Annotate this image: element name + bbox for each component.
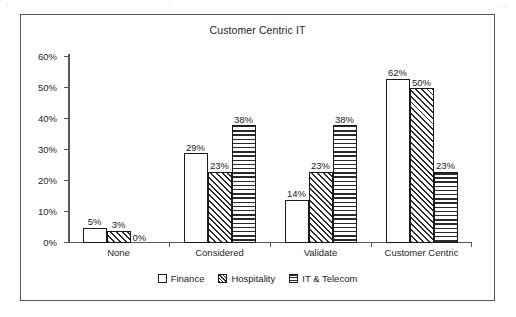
bar-group-bars: 62% 50% 23% [371, 57, 472, 243]
bar-hospitality[interactable]: 50% [410, 88, 434, 243]
bar-value-label: 5% [88, 217, 102, 227]
legend-item-finance[interactable]: Finance [158, 273, 205, 284]
bar-finance[interactable]: 5% [83, 228, 107, 244]
legend-label-finance: Finance [171, 273, 205, 284]
bar-it-telecom[interactable]: 38% [232, 125, 256, 243]
bar-group-validate: 14% 23% 38% [270, 57, 371, 243]
bar-hospitality[interactable]: 23% [309, 172, 333, 243]
x-axis-category-none: None [68, 247, 169, 258]
bar-slot: 14% [285, 57, 309, 243]
legend-item-hospitality[interactable]: Hospitality [218, 273, 275, 284]
x-axis-category-considered: Considered [169, 247, 270, 258]
bar-finance[interactable]: 62% [386, 79, 410, 243]
bar-value-label: 23% [436, 161, 455, 171]
bar-slot: 5% [83, 57, 107, 243]
x-axis-category-customer-centric: Customer Centric [371, 247, 472, 258]
bar-hospitality[interactable]: 3% [107, 231, 131, 243]
bar-value-label: 38% [335, 115, 354, 125]
chart-container: Customer Centric IT 0% 10% 20% 30% 40% 5… [20, 14, 495, 301]
bar-it-telecom[interactable]: 23% [434, 172, 458, 243]
bar-slot: 23% [434, 57, 458, 243]
bar-slot: 29% [184, 57, 208, 243]
legend-swatch-it-telecom-icon [289, 274, 298, 283]
bar-finance[interactable]: 29% [184, 153, 208, 243]
bar-value-label: 0% [133, 233, 147, 243]
bar-slot: 62% [386, 57, 410, 243]
y-axis-label: 50% [38, 82, 57, 93]
bar-group-bars: 29% 23% 38% [169, 57, 270, 243]
y-axis-label: 40% [38, 113, 57, 124]
plot-area: 0% 10% 20% 30% 40% 50% 60% [68, 57, 472, 243]
bar-group-customer-centric: 62% 50% 23% [371, 57, 472, 243]
bar-value-label: 14% [287, 189, 306, 199]
bar-group-considered: 29% 23% 38% [169, 57, 270, 243]
bar-slot: 50% [410, 57, 434, 243]
bar-finance[interactable]: 14% [285, 200, 309, 243]
bar-hospitality[interactable]: 23% [208, 172, 232, 243]
y-axis-label: 0% [43, 237, 57, 248]
bar-it-telecom[interactable]: 38% [333, 125, 357, 243]
y-axis-label: 10% [38, 206, 57, 217]
bar-value-label: 38% [234, 115, 253, 125]
scan-artifact-glyph: I [6, 1, 8, 9]
legend-item-it-telecom[interactable]: IT & Telecom [289, 273, 357, 284]
bar-value-label: 62% [388, 68, 407, 78]
legend-swatch-finance-icon [158, 274, 167, 283]
bar-slot: 38% [232, 57, 256, 243]
bar-value-label: 23% [210, 161, 229, 171]
chart-title: Customer Centric IT [21, 24, 494, 36]
legend-label-it-telecom: IT & Telecom [302, 273, 357, 284]
bar-group-bars: 14% 23% 38% [270, 57, 371, 243]
y-axis-label: 60% [38, 51, 57, 62]
y-axis-label: 30% [38, 144, 57, 155]
bar-value-label: 50% [412, 78, 431, 88]
y-axis-label: 20% [38, 175, 57, 186]
chart-legend: Finance Hospitality IT & Telecom [21, 273, 494, 284]
scan-artifact-glyph: e [503, 2, 506, 10]
x-axis-category-labels: None Considered Validate Customer Centri… [68, 247, 472, 258]
bar-value-label: 29% [186, 143, 205, 153]
legend-label-hospitality: Hospitality [231, 273, 275, 284]
bar-groups: 5% 3% 0% [68, 57, 472, 243]
bar-slot: 0% [131, 57, 155, 243]
scan-artifact-glyph: J [168, 1, 171, 9]
bar-slot: 3% [107, 57, 131, 243]
bar-group-bars: 5% 3% 0% [68, 57, 169, 243]
bar-slot: 38% [333, 57, 357, 243]
bar-slot: 23% [309, 57, 333, 243]
legend-swatch-hospitality-icon [218, 274, 227, 283]
scan-artifacts: I J e [0, 0, 516, 13]
bar-group-none: 5% 3% 0% [68, 57, 169, 243]
bar-value-label: 3% [112, 220, 126, 230]
x-axis-category-validate: Validate [270, 247, 371, 258]
bar-value-label: 23% [311, 161, 330, 171]
bar-slot: 23% [208, 57, 232, 243]
